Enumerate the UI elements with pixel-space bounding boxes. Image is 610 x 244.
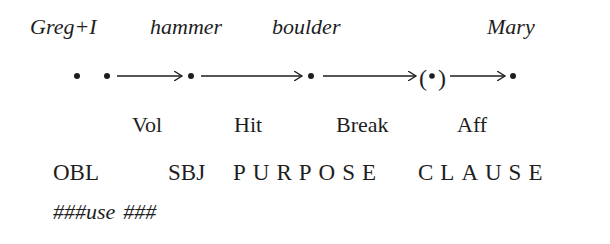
- function-obl: OBL: [53, 161, 99, 184]
- function-sbj: SBJ: [168, 161, 205, 184]
- function-clause: CLAUSE: [418, 161, 549, 184]
- function-purpose: PURPOSE: [233, 161, 383, 184]
- verb-suffix-hashes: ###: [123, 199, 156, 224]
- verb-use: use: [86, 199, 115, 224]
- verb-prefix-hashes: ###: [53, 199, 86, 224]
- relation-hit: Hit: [234, 114, 262, 136]
- verb-line: ###use ###: [53, 201, 156, 223]
- chain-node: [104, 73, 110, 79]
- paren-open: (: [419, 66, 427, 90]
- relation-aff: Aff: [457, 114, 487, 136]
- chain-node: [308, 73, 314, 79]
- relation-break: Break: [336, 114, 389, 136]
- chain-node-optional: [429, 73, 435, 79]
- chain-node: [74, 73, 80, 79]
- relation-vol: Vol: [132, 114, 162, 136]
- chain-node: [510, 73, 516, 79]
- chain-node: [188, 73, 194, 79]
- paren-close: ): [438, 66, 446, 90]
